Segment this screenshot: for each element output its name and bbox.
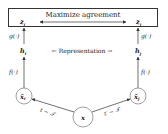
g-left-label: g(·)	[9, 32, 20, 40]
t-left-label: t ∼ 𝒯	[39, 107, 56, 118]
f-right-label: f(·)	[140, 68, 150, 76]
agreement-label: Maximize agreement	[46, 11, 121, 19]
simclr-diagram: Maximize agreement zi zj g(·) g(·) hi hj…	[0, 0, 168, 134]
h-i-label: hi	[20, 47, 27, 56]
x-label: x	[80, 114, 85, 122]
f-left-label: f(·)	[8, 68, 18, 76]
representation-label: ← Representation →	[52, 47, 113, 55]
h-j-label: hj	[135, 47, 142, 56]
g-right-label: g(·)	[141, 32, 152, 40]
